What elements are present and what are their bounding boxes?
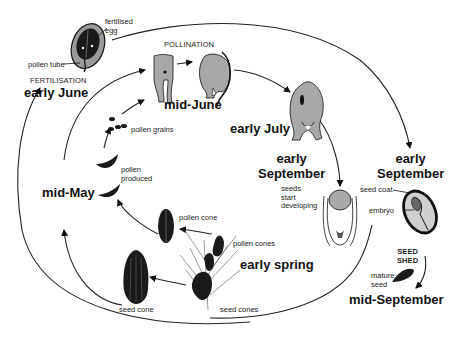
fertilised-ovule-illustration [63,19,110,73]
mature-seed-illustration [392,269,414,282]
label-pollination: POLLINATION [164,41,214,49]
stage-mid-june: mid-June [164,98,222,111]
seed-cone-illustration [124,250,149,304]
pollen-grains-illustration [108,117,127,131]
stage-early-september-left: early September [258,152,325,182]
stage-early-spring: early spring [240,258,314,271]
label-pollen-cone: pollen cone [179,214,217,222]
seed-with-embryo-illustration [393,186,443,239]
label-fertilised-egg: fertilised egg [105,18,133,35]
stage-early-july: early July [230,122,290,135]
stage-early-september-right: early September [377,152,444,182]
stage-mid-september: mid-September [349,293,444,306]
label-seed-coat: seed coat [360,186,393,194]
label-pollen-produced: pollen produced [121,166,152,183]
stage-mid-may: mid-May [42,186,95,199]
label-embryo: embryo [369,207,394,215]
label-fertilisation: FERTILISATION [30,77,86,85]
label-seed-cones: seed cones [220,306,258,314]
label-seeds-start-developing: seeds start developing [281,185,317,211]
label-seed-cone: seed cone [119,306,154,314]
ovule-early-july-illustration [290,82,323,140]
label-pollen-tube: pollen tube [28,61,65,69]
pine-branch-illustration [180,232,240,310]
developing-seed-illustration [323,190,357,246]
stage-early-june: early June [24,86,88,99]
pollen-sac-scales-illustration [96,154,120,197]
pine-life-cycle-diagram: fertilised egg pollen tube FERTILISATION… [0,0,457,350]
label-pollen-grains: pollen grains [131,126,174,134]
label-seed-shed: SEED SHED [397,248,418,265]
pollen-cone-illustration [158,209,174,243]
label-mature-seed: mature seed [371,272,394,289]
label-pollen-cones: pollen cones [233,240,275,248]
